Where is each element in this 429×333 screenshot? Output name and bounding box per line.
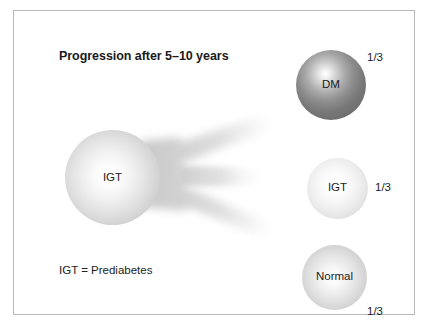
outcome-sphere-igt-label: IGT [307,181,368,193]
fraction-label-normal: 1/3 [367,305,383,317]
source-sphere-igt-label: IGT [65,171,160,183]
fraction-label-igt: 1/3 [375,181,391,193]
figure-panel: Progression after 5–10 years [13,10,415,315]
outcome-sphere-normal: Normal [302,245,367,310]
progression-diagram: Progression after 5–10 years [0,0,429,333]
source-sphere-igt: IGT [65,130,160,225]
outcome-sphere-dm-label: DM [296,78,366,90]
outcome-sphere-igt: IGT [307,158,368,219]
figure-footnote: IGT = Prediabetes [59,264,152,276]
page-title: Progression after 5–10 years [59,49,229,63]
outcome-sphere-dm: DM [296,50,366,120]
outcome-sphere-normal-label: Normal [302,270,367,282]
fraction-label-dm: 1/3 [367,51,383,63]
